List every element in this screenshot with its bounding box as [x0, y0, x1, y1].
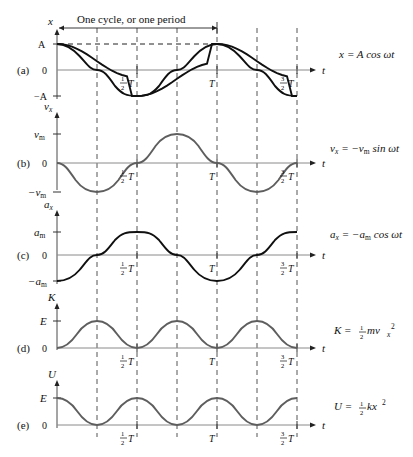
panel-d-y-axis-label: K — [47, 291, 56, 303]
panel-b-tick-zero: 0 — [42, 158, 47, 169]
panel-a-tick-A: A — [38, 39, 46, 50]
panel-e-y-axis-arrow — [55, 380, 60, 386]
svg-text:2: 2 — [281, 84, 284, 91]
svg-text:U =: U = — [334, 400, 352, 412]
svg-text:2: 2 — [360, 409, 363, 416]
panel-e-curve — [57, 398, 297, 425]
svg-text:2: 2 — [121, 362, 124, 369]
svg-text:T: T — [288, 433, 295, 444]
panel-c-label: (c) — [17, 249, 30, 262]
shm-graphs-figure: One cycle, or one period (a) x A 0 — [0, 0, 413, 457]
panel-e-equation: U = 1 2 kx 2 — [334, 398, 386, 416]
panel-a-tick-zero: 0 — [42, 65, 47, 76]
panel-a-xtick-threehalfT: 3 2 T — [280, 75, 295, 91]
panel-d-label: (d) — [17, 342, 30, 355]
svg-text:T: T — [128, 78, 135, 89]
panel-c-group: (c) ax am 0 −am t 1 2 T T 3 2 — [17, 198, 403, 289]
svg-text:1: 1 — [121, 260, 124, 267]
panel-a-x-axis-arrow — [310, 68, 316, 73]
panel-e-tick-E: E — [39, 392, 47, 404]
panel-e-xtick-halfT: 1 2 T — [120, 430, 135, 446]
panel-a-x-axis-label: t — [322, 64, 326, 76]
panel-d-xtick-T: T — [209, 356, 216, 367]
shm-svg-canvas: One cycle, or one period (a) x A 0 — [0, 0, 413, 457]
panel-a-xtick-T: T — [209, 78, 216, 89]
svg-text:2: 2 — [121, 84, 124, 91]
panel-b-y-axis-label: vx — [44, 100, 53, 114]
panel-a-group: One cycle, or one period (a) x A 0 — [17, 13, 395, 102]
panel-c-y-axis-arrow — [55, 210, 60, 216]
svg-text:3: 3 — [281, 75, 284, 82]
svg-text:1: 1 — [360, 324, 363, 331]
svg-text:T: T — [288, 263, 295, 274]
svg-text:3: 3 — [281, 260, 284, 267]
svg-text:T: T — [288, 356, 295, 367]
panel-c-y-axis-label: ax — [44, 198, 54, 212]
panel-c-tick-zero: 0 — [42, 250, 47, 261]
panel-b-tick-vm: vm — [34, 128, 45, 142]
panel-c-tick-negam: −am — [28, 275, 47, 289]
panel-d-equation: K = 1 2 mv x 2 — [333, 322, 395, 340]
panel-b-x-axis-arrow — [310, 161, 316, 166]
panel-a-y-axis-label: x — [47, 15, 53, 27]
svg-text:2: 2 — [121, 177, 124, 184]
panel-e-tick-zero: 0 — [42, 420, 47, 431]
svg-text:kx: kx — [367, 400, 377, 412]
svg-text:2: 2 — [281, 177, 284, 184]
svg-text:2: 2 — [281, 362, 284, 369]
panel-d-group: (d) K E 0 t 1 2 T T 3 2 T K = 1 2 — [17, 291, 395, 369]
svg-text:3: 3 — [281, 353, 284, 360]
panel-b-x-axis-label: t — [322, 157, 326, 169]
panel-c-x-axis-arrow — [310, 253, 316, 258]
panel-d-tick-zero: 0 — [42, 343, 47, 354]
panel-c-x-axis-label: t — [322, 249, 326, 261]
svg-text:2: 2 — [121, 439, 124, 446]
svg-text:T: T — [128, 356, 135, 367]
panel-a-label: (a) — [17, 64, 30, 77]
panel-c-xtick-halfT: 1 2 T — [120, 260, 135, 276]
panel-c-tick-am: am — [34, 226, 46, 240]
panel-d-x-axis-arrow — [310, 346, 316, 351]
panel-e-xtick-T: T — [209, 433, 216, 444]
svg-text:2: 2 — [382, 398, 386, 407]
panel-e-x-axis-arrow — [310, 423, 316, 428]
panel-c-equation: ax= −amcos ωt — [330, 228, 403, 242]
panel-e-y-axis-label: U — [48, 368, 57, 380]
panel-c-xtick-T: T — [209, 263, 216, 274]
panel-c-xtick-threehalfT: 3 2 T — [280, 260, 295, 276]
panel-a-equation: x= A cos ωt — [338, 48, 395, 60]
panel-a-xtick-halfT: 1 2 T — [120, 75, 135, 91]
panel-b-equation: vx= −vmsin ωt — [330, 142, 400, 156]
svg-text:K =: K = — [333, 324, 352, 336]
one-cycle-label: One cycle, or one period — [77, 13, 186, 25]
panel-b-xtick-threehalfT: 3 2 T — [280, 168, 295, 184]
panel-e-label: (e) — [17, 419, 30, 432]
svg-text:2: 2 — [121, 269, 124, 276]
panel-a-y-axis-arrow — [55, 29, 60, 35]
svg-text:1: 1 — [360, 400, 363, 407]
panel-b-label: (b) — [17, 157, 30, 170]
svg-text:2: 2 — [281, 439, 284, 446]
panel-d-tick-E: E — [39, 315, 47, 327]
svg-text:3: 3 — [281, 168, 284, 175]
panel-b-xtick-halfT: 1 2 T — [120, 168, 135, 184]
panel-e-x-axis-label: t — [322, 419, 326, 431]
svg-text:3: 3 — [281, 430, 284, 437]
svg-text:2: 2 — [391, 322, 395, 331]
panel-e-xtick-threehalfT: 3 2 T — [280, 430, 295, 446]
svg-text:x: x — [386, 330, 391, 339]
panel-d-xtick-threehalfT: 3 2 T — [280, 353, 295, 369]
svg-text:1: 1 — [121, 168, 124, 175]
panel-d-x-axis-label: t — [322, 342, 326, 354]
svg-text:1: 1 — [121, 430, 124, 437]
svg-text:1: 1 — [121, 75, 124, 82]
svg-text:2: 2 — [281, 269, 284, 276]
svg-text:T: T — [128, 433, 135, 444]
svg-text:T: T — [288, 171, 295, 182]
panel-b-xtick-T: T — [209, 171, 216, 182]
svg-text:mv: mv — [367, 324, 380, 336]
svg-text:T: T — [128, 263, 135, 274]
panel-d-xtick-halfT: 1 2 T — [120, 353, 135, 369]
svg-text:T: T — [128, 171, 135, 182]
panel-b-group: (b) vx vm 0 −vm t 1 2 T T 3 2 — [17, 100, 400, 200]
